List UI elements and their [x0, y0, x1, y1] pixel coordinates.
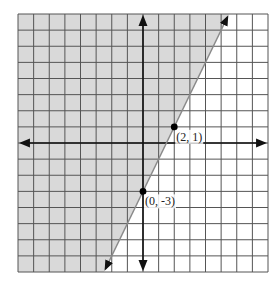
- point-label: (0, -3): [145, 194, 175, 208]
- coordinate-plane: (0, -3)(2, 1): [0, 0, 280, 290]
- point-label: (2, 1): [176, 130, 202, 144]
